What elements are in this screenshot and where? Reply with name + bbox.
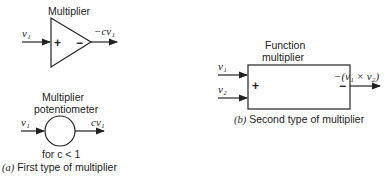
input1-label: v₁ (218, 60, 227, 72)
amplifier-label: Multiplier (48, 5, 91, 17)
potentiometer-label-line1: Multiplier (42, 91, 85, 103)
function-label-line2: multiplier (262, 51, 305, 63)
input2-label: v₂ (218, 83, 227, 95)
caption-a: (a) First type of multiplier (2, 161, 117, 174)
caption-b: (b) Second type of multiplier (234, 113, 365, 126)
amplifier-output-label: −cv₁ (94, 25, 115, 37)
potentiometer-output-label: cv₁ (91, 116, 105, 128)
plus-sign: + (252, 79, 259, 93)
function-output-label: −(v₁ × v₂) (334, 70, 379, 83)
multiplier-potentiometer: Multiplier potentiometer v₁ cv₁ for c < … (21, 91, 105, 160)
potentiometer-condition: for c < 1 (42, 148, 80, 160)
plus-sign: + (54, 36, 61, 50)
function-label-line1: Function (265, 39, 305, 51)
multiplier-diagram: Multiplier v₁ + − −cv₁ Multiplier potent… (0, 0, 392, 181)
potentiometer-circle (45, 116, 75, 146)
minus-sign: − (76, 36, 83, 50)
amplifier-input-label: v₁ (22, 27, 31, 39)
amplifier-multiplier: Multiplier v₁ + − −cv₁ (22, 5, 117, 67)
potentiometer-input-label: v₁ (21, 116, 30, 128)
function-multiplier: Function multiplier v₁ v₂ + − −(v₁ × v₂) (218, 39, 380, 109)
potentiometer-label-line2: potentiometer (34, 103, 99, 115)
